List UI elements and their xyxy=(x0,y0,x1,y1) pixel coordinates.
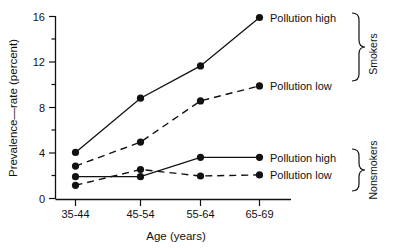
x-tick-label-55-64: 55-64 xyxy=(186,208,214,220)
data-point xyxy=(137,139,144,146)
y-tick-label-16: 16 xyxy=(33,11,45,23)
x-axis-title: Age (years) xyxy=(146,230,206,242)
series-label-smokers-pollution-low: Pollution low xyxy=(270,80,332,92)
series-nonsmokers-pollution-low: Pollution low xyxy=(72,166,332,189)
data-point xyxy=(197,154,204,161)
series-line-smokers-high xyxy=(76,18,260,153)
data-point xyxy=(197,62,204,69)
group-brace-smokers: Smokers xyxy=(352,13,379,81)
prevalence-rate-line-chart: 16 12 8 4 0 Prevalence—rate (percent) 35… xyxy=(0,0,396,248)
x-tick-label-65-69: 65-69 xyxy=(245,208,273,220)
data-point xyxy=(72,149,79,156)
x-tick-label-35-44: 35-44 xyxy=(61,208,89,220)
y-axis-title: Prevalence—rate (percent) xyxy=(7,39,19,177)
x-tick-label-45-54: 45-54 xyxy=(126,208,154,220)
y-tick-label-0: 0 xyxy=(39,193,45,205)
y-tick-label-4: 4 xyxy=(39,147,45,159)
data-point xyxy=(137,166,144,173)
data-point xyxy=(72,182,79,189)
series-label-nonsmokers-pollution-high: Pollution high xyxy=(270,152,336,164)
group-brace-nonsmokers: Nonsmokers xyxy=(352,141,379,200)
y-axis: 16 12 8 4 0 Prevalence—rate (percent) xyxy=(7,11,56,205)
data-point xyxy=(256,82,263,89)
data-point xyxy=(137,173,144,180)
data-point xyxy=(197,97,204,104)
data-point xyxy=(256,154,263,161)
brace-smokers-icon xyxy=(352,13,365,81)
data-point xyxy=(197,172,204,179)
brace-nonsmokers-icon xyxy=(352,149,365,191)
series-line-smokers-low xyxy=(76,86,260,166)
data-point xyxy=(72,173,79,180)
series-line-nonsmokers-high xyxy=(76,157,260,176)
y-tick-label-8: 8 xyxy=(39,102,45,114)
chart-canvas: 16 12 8 4 0 Prevalence—rate (percent) 35… xyxy=(0,0,396,248)
data-point xyxy=(72,163,79,170)
series-line-nonsmokers-low xyxy=(76,170,260,186)
group-label-smokers: Smokers xyxy=(367,33,379,74)
x-axis: 35-44 45-54 55-64 65-69 Age (years) xyxy=(56,200,292,243)
data-point xyxy=(256,171,263,178)
series-label-nonsmokers-pollution-low: Pollution low xyxy=(270,169,332,181)
data-point xyxy=(137,95,144,102)
group-label-nonsmokers: Nonsmokers xyxy=(367,141,379,200)
data-point xyxy=(256,14,263,21)
y-tick-label-12: 12 xyxy=(33,56,45,68)
series-label-smokers-pollution-high: Pollution high xyxy=(270,12,336,24)
